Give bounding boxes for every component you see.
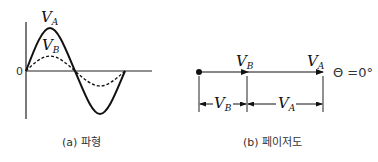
vb-dimension-label: VB <box>214 94 232 113</box>
origin-label: 0 <box>16 65 23 78</box>
caption-a: (a) 파형 <box>62 136 101 149</box>
diagram-canvas: 0 VA VB (a) 파형 VB VA Θ =0° VB VA (b) 페이저… <box>0 0 378 162</box>
va-dimension-label: VA <box>278 94 296 113</box>
va-label: VA <box>41 8 59 27</box>
waveform-panel: 0 VA VB (a) 파형 <box>16 8 152 149</box>
vb-label: VB <box>42 36 60 55</box>
vb-phasor-label: VB <box>236 52 254 71</box>
caption-b: (b) 페이저도 <box>243 136 302 149</box>
va-phasor-label: VA <box>307 52 325 71</box>
phasor-panel: VB VA Θ =0° VB VA (b) 페이저도 <box>196 52 373 149</box>
angle-label: Θ =0° <box>333 65 373 80</box>
